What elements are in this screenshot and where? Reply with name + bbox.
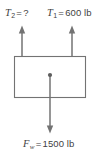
weight-force-arrow-head bbox=[47, 126, 53, 134]
tension-two-value: ? bbox=[23, 7, 28, 18]
tension-two-label: T2=? bbox=[5, 8, 29, 19]
weight-force-value: 1500 lb bbox=[43, 138, 75, 149]
tension-two-arrow-head bbox=[19, 26, 25, 34]
tension-one-label: T1=600 lb bbox=[47, 8, 92, 19]
tension-one-equals: = bbox=[57, 7, 65, 18]
center-of-gravity-dot bbox=[48, 73, 52, 77]
weight-force-equals: = bbox=[34, 138, 42, 149]
tension-two-arrow bbox=[19, 26, 25, 57]
tension-one-value: 600 lb bbox=[65, 7, 91, 18]
weight-force-label: Fw=1500 lb bbox=[23, 139, 74, 151]
tension-one-arrow-head bbox=[69, 26, 75, 34]
free-body-diagram-figure: T2=? T1=600 lb Fw=1500 lb bbox=[0, 0, 111, 156]
tension-two-equals: = bbox=[15, 7, 23, 18]
weight-force-symbol: F bbox=[23, 138, 30, 149]
tension-one-arrow bbox=[69, 26, 75, 57]
free-body-diagram-canvas bbox=[0, 0, 111, 156]
